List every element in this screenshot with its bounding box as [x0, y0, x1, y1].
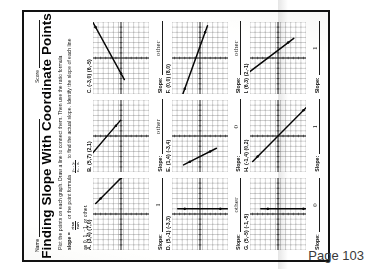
slope-answer-row: Slope:other: [232, 21, 241, 93]
slope-answer-label: Slope:: [157, 77, 163, 93]
coordinate-plane-graph[interactable]: [172, 21, 232, 94]
slope-answer-label: Slope:: [314, 77, 320, 93]
problem-points: (-1,4) (0,2): [243, 139, 249, 165]
slope-answer-label: Slope:: [235, 156, 241, 172]
problem-f: F. (0,0) (8,0)Slope:other: [165, 21, 242, 94]
slope-answer-row: Slope:0: [311, 178, 320, 250]
problem-i: I. (6,3) (2,-1)Slope:1: [243, 21, 320, 94]
coordinate-plane-graph[interactable]: [250, 21, 310, 94]
slope-answer-value[interactable]: other: [155, 99, 163, 153]
problem-a: A. (3,4) (7,0)Slope:1: [86, 178, 163, 251]
problem-points: (5,7) (2,1): [86, 141, 92, 165]
slope-answer-row: Slope:1: [154, 178, 163, 250]
slope-answer-label: Slope:: [235, 77, 241, 93]
slope-answer-row: Slope:other: [154, 99, 163, 171]
problem-points: (6,3) (2,-1): [243, 63, 249, 89]
slope-answer-value[interactable]: other: [233, 21, 241, 75]
coordinate-plane-graph[interactable]: [172, 178, 232, 251]
problem-points: (0,0) (8,0): [165, 64, 171, 88]
problem-label: G. (5,-5) (-1,-5): [243, 178, 249, 250]
instruction-line-2-mid: or the point formula: [66, 175, 72, 219]
problem-letter: E.: [165, 167, 171, 172]
slope-answer-row: Slope:other: [154, 21, 163, 93]
point-slope-fraction: y₂ - y₁ x₂ - x₁: [71, 160, 80, 173]
coordinate-plane-graph[interactable]: [250, 178, 310, 251]
problem-letter: D.: [165, 245, 171, 250]
problem-letter: H.: [243, 166, 249, 171]
problem-label: C. (-3,0) (6,-5): [86, 21, 92, 93]
page-number: Page 103: [308, 248, 364, 263]
problem-label: A. (3,4) (7,0): [86, 178, 92, 250]
problem-h: H. (-1,4) (0,2)Slope:1: [243, 99, 320, 172]
problem-points: (1,4) (-3,4): [165, 140, 171, 166]
slope-answer-label: Slope:: [157, 156, 163, 172]
problem-d: D. (5,-1) (-3,3)Slope:other: [165, 178, 242, 251]
slope-answer-row: Slope:1: [311, 21, 320, 93]
slope-answer-value[interactable]: 1: [312, 99, 320, 153]
slope-answer-value[interactable]: 0: [312, 178, 320, 232]
instruction-line-2: slope = rise run or the point formula y₂…: [65, 22, 80, 250]
problem-points: (5,-1) (-3,3): [165, 216, 171, 244]
problem-letter: F.: [165, 89, 171, 93]
slope-answer-row: Slope:1: [311, 99, 320, 171]
slope-answer-label: Slope:: [235, 234, 241, 250]
instruction-line-1: Plot the points on each graph. Draw a li…: [56, 22, 64, 250]
problem-label: H. (-1,4) (0,2): [243, 99, 249, 171]
problem-label: F. (0,0) (8,0): [165, 21, 171, 93]
slope-answer-row: Slope:0: [232, 99, 241, 171]
problem-points: (-3,0) (6,-5): [86, 59, 92, 87]
coordinate-plane-graph[interactable]: [172, 99, 232, 172]
problem-label: D. (5,-1) (-3,3): [165, 178, 171, 250]
problem-label: E. (1,4) (-3,4): [165, 99, 171, 171]
problem-points: (5,-5) (-1,-5): [243, 214, 249, 243]
run-term: run: [76, 221, 80, 230]
slope-word: slope =: [66, 232, 72, 250]
page-title: Finding Slope With Coordinate Points: [39, 12, 54, 260]
coordinate-plane-graph[interactable]: [93, 178, 153, 251]
slope-answer-label: Slope:: [314, 156, 320, 172]
problem-letter: C.: [86, 88, 92, 93]
problem-grid: A. (3,4) (7,0)Slope:1B. (5,7) (2,1)Slope…: [86, 21, 320, 251]
worksheet-sheet: Name Score Finding Slope With Coordinate…: [22, 10, 330, 262]
coordinate-plane-graph[interactable]: [250, 99, 310, 172]
problem-letter: B.: [86, 166, 92, 171]
coordinate-plane-graph[interactable]: [93, 99, 153, 172]
problem-letter: I.: [243, 90, 249, 93]
problem-label: I. (6,3) (2,-1): [243, 21, 249, 93]
slope-answer-label: Slope:: [157, 234, 163, 250]
problem-points: (3,4) (7,0): [86, 219, 92, 243]
instruction-line-2-end: to find the actual slope. Identify the s…: [66, 39, 72, 159]
problem-b: B. (5,7) (2,1)Slope:other: [86, 99, 163, 172]
coordinate-plane-graph[interactable]: [93, 21, 153, 94]
slope-answer-value[interactable]: 1: [312, 21, 320, 75]
problem-letter: A.: [86, 245, 92, 250]
slope-answer-value[interactable]: 0: [233, 99, 241, 153]
slope-answer-value[interactable]: other: [155, 21, 163, 75]
scanned-worksheet-page: Name Score Finding Slope With Coordinate…: [22, 10, 330, 262]
rise-over-run-fraction: rise run: [71, 221, 80, 230]
slope-answer-value[interactable]: other: [233, 178, 241, 232]
point-denominator: x₂ - x₁: [76, 160, 80, 173]
problem-letter: G.: [243, 245, 249, 250]
problem-g: G. (5,-5) (-1,-5)Slope:0: [243, 178, 320, 251]
slope-answer-value[interactable]: 1: [155, 178, 163, 232]
problem-c: C. (-3,0) (6,-5)Slope:other: [86, 21, 163, 94]
slope-answer-row: Slope:other: [232, 178, 241, 250]
problem-e: E. (1,4) (-3,4)Slope:0: [165, 99, 242, 172]
problem-label: B. (5,7) (2,1): [86, 99, 92, 171]
